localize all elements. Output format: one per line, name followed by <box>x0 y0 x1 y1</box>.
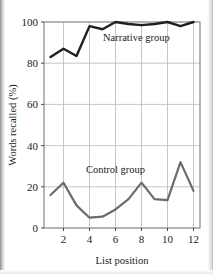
x-tick-label: 6 <box>113 233 119 245</box>
y-tick-label: 0 <box>33 222 39 234</box>
plot-area-background <box>44 22 200 228</box>
x-axis-ticks: 24681012 <box>61 228 199 245</box>
x-tick-label: 2 <box>61 233 67 245</box>
series-label-control-group: Control group <box>86 164 145 175</box>
x-axis-title: List position <box>96 255 150 266</box>
x-tick-label: 12 <box>188 233 199 245</box>
y-tick-label: 40 <box>27 140 39 152</box>
x-tick-label: 10 <box>162 233 174 245</box>
chart-figure: 020406080100 24681012 List position Word… <box>0 0 213 274</box>
y-axis-ticks: 020406080100 <box>22 16 45 234</box>
x-tick-label: 8 <box>139 233 145 245</box>
y-tick-label: 80 <box>27 57 39 69</box>
y-axis-title: Words recalled (%) <box>7 84 19 166</box>
line-chart-plot: 020406080100 24681012 List position Word… <box>0 0 213 274</box>
y-tick-label: 100 <box>22 16 39 28</box>
series-label-narrative-group: Narrative group <box>103 32 170 43</box>
x-tick-label: 4 <box>87 233 93 245</box>
y-tick-label: 60 <box>27 98 39 110</box>
y-tick-label: 20 <box>27 181 39 193</box>
